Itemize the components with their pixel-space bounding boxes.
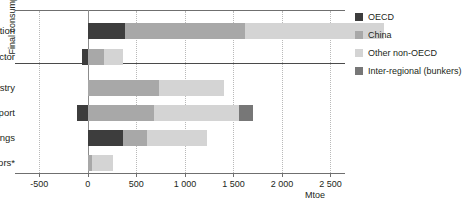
bar-segment-industry-other-non-oecd[interactable] <box>159 80 224 96</box>
bar-segment-power-generation-oecd[interactable] <box>88 23 125 39</box>
bar-row-other-energy-sector <box>15 49 345 65</box>
bar-segment-power-generation-china[interactable] <box>125 23 245 39</box>
bar-segment-transport-other-non-oecd[interactable] <box>154 105 239 121</box>
x-tick-label-2500: 2 500 <box>319 179 342 189</box>
legend-item-inter-regional-bunkers[interactable]: Inter-regional (bunkers) <box>355 62 471 80</box>
plot-area: Power generation Other energy sector Ind… <box>15 10 345 173</box>
legend: OECD China Other non-OECD Inter-regional… <box>355 8 471 80</box>
legend-label-oecd: OECD <box>368 12 394 22</box>
bar-row-other-sectors <box>15 155 345 171</box>
category-label-transport: Transport <box>0 107 15 118</box>
bar-segment-other-sectors-other-non-oecd[interactable] <box>92 155 113 171</box>
legend-item-oecd[interactable]: OECD <box>355 8 471 26</box>
category-label-other-sectors: Other sectors* <box>0 157 15 168</box>
x-tick-label--500: -500 <box>30 179 48 189</box>
bar-row-power-generation <box>15 23 345 39</box>
legend-label-inter-regional-bunkers: Inter-regional (bunkers) <box>368 66 462 76</box>
legend-item-other-non-oecd[interactable]: Other non-OECD <box>355 44 471 62</box>
x-tick-mark-500 <box>136 173 137 177</box>
x-tick-mark-2000 <box>282 173 283 177</box>
plot-frame-bottom-line <box>15 173 345 174</box>
bar-segment-transport-china[interactable] <box>88 105 154 121</box>
x-tick-mark-2500 <box>330 173 331 177</box>
x-tick-mark--500 <box>39 173 40 177</box>
legend-swatch-other-non-oecd <box>355 49 363 57</box>
plot-frame-top-line <box>15 10 345 11</box>
x-tick-label-500: 500 <box>129 179 144 189</box>
bar-row-transport <box>15 105 345 121</box>
x-tick-label-1500: 1 500 <box>222 179 245 189</box>
bar-segment-industry-china[interactable] <box>88 80 159 96</box>
x-tick-label-0: 0 <box>85 179 90 189</box>
bar-row-buildings <box>15 130 345 146</box>
energy-sector-stacked-bar-chart: Power generation Other energy sector Ind… <box>0 0 471 207</box>
bar-segment-transport-inter-regional-bunkers[interactable] <box>239 105 253 121</box>
bar-segment-buildings-china[interactable] <box>123 130 147 146</box>
bar-segment-other-energy-sector-other-non-oecd[interactable] <box>104 49 122 65</box>
bar-segment-transport-oecd[interactable] <box>77 105 88 121</box>
bar-row-industry <box>15 80 345 96</box>
bar-segment-buildings-oecd[interactable] <box>88 130 123 146</box>
legend-swatch-oecd <box>355 13 363 21</box>
x-tick-mark-1500 <box>233 173 234 177</box>
legend-label-china: China <box>368 30 392 40</box>
category-label-buildings: Buildings <box>0 132 15 143</box>
legend-swatch-inter-regional-bunkers <box>355 67 363 75</box>
bar-segment-buildings-other-non-oecd[interactable] <box>147 130 207 146</box>
x-axis-unit-label: Mtoe <box>305 190 325 200</box>
category-label-industry: Industry <box>0 82 15 93</box>
legend-swatch-china <box>355 31 363 39</box>
x-tick-mark-0 <box>88 173 89 177</box>
x-tick-label-1000: 1 000 <box>174 179 197 189</box>
x-tick-mark-1000 <box>185 173 186 177</box>
x-tick-label-2000: 2 000 <box>271 179 294 189</box>
legend-item-china[interactable]: China <box>355 26 471 44</box>
bar-segment-other-energy-sector-china[interactable] <box>88 49 105 65</box>
legend-label-other-non-oecd: Other non-OECD <box>368 48 437 58</box>
